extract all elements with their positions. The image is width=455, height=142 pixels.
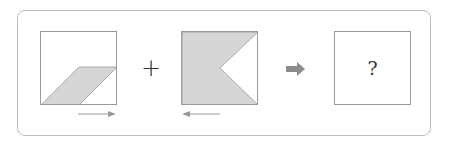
- panel-3-answer: ?: [334, 31, 411, 105]
- panel-1-parallelogram: [40, 31, 117, 105]
- arrow-right-icon: [78, 110, 118, 118]
- parallelogram-shape: [41, 32, 117, 105]
- plus-operator: +: [139, 54, 163, 82]
- question-mark: ?: [335, 32, 410, 104]
- notched-square-shape: [182, 32, 258, 105]
- panel-2-notched-square: [181, 31, 258, 105]
- arrow-left-icon: [182, 110, 222, 118]
- result-arrow-icon: [286, 62, 306, 76]
